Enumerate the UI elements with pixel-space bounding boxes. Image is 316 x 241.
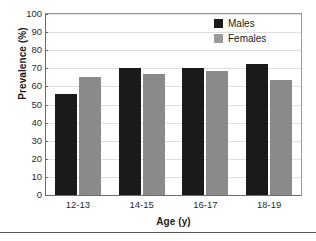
x-axis-title: Age (y) — [45, 216, 302, 227]
bar-group — [119, 14, 165, 195]
y-tick-label: 40 — [20, 118, 42, 128]
bar-males — [182, 68, 204, 195]
footer-divider — [0, 232, 316, 233]
y-tick-label: 20 — [20, 154, 42, 164]
y-tick-label: 50 — [20, 100, 42, 110]
bar-females — [79, 77, 101, 195]
y-tick-mark — [45, 105, 48, 106]
y-tick-label: 80 — [20, 45, 42, 55]
y-tick-mark — [45, 32, 48, 33]
legend-item-males: Males — [214, 17, 266, 30]
bar-group — [55, 14, 101, 195]
y-tick-mark — [45, 14, 48, 15]
bar-males — [119, 68, 141, 195]
y-tick-label: 100 — [20, 9, 42, 19]
y-tick-mark — [45, 50, 48, 51]
y-tick-mark — [45, 141, 48, 142]
y-tick-label: 30 — [20, 136, 42, 146]
y-tick-label: 10 — [20, 172, 42, 182]
bar-males — [246, 64, 268, 195]
y-tick-mark — [45, 195, 48, 196]
chart-legend: MalesFemales — [214, 17, 266, 47]
y-tick-label: 60 — [20, 81, 42, 91]
legend-swatch-males-icon — [214, 19, 223, 28]
y-tick-mark — [45, 68, 48, 69]
y-tick-mark — [45, 123, 48, 124]
y-tick-label: 90 — [20, 27, 42, 37]
legend-label: Females — [228, 34, 266, 44]
bar-females — [206, 71, 228, 195]
bar-chart-figure: Prevalence (%) 1009080706050403020100 12… — [0, 0, 316, 241]
y-tick-mark — [45, 159, 48, 160]
legend-item-females: Females — [214, 32, 266, 45]
y-tick-mark — [45, 86, 48, 87]
y-tick-label: 70 — [20, 63, 42, 73]
legend-label: Males — [228, 19, 255, 29]
y-axis-ticks: 1009080706050403020100 — [18, 0, 42, 241]
bar-males — [55, 94, 77, 195]
y-tick-mark — [45, 177, 48, 178]
x-tick-label: 18-19 — [232, 200, 306, 210]
y-tick-label: 0 — [20, 190, 42, 200]
legend-swatch-females-icon — [214, 34, 223, 43]
bar-females — [270, 80, 292, 195]
bar-females — [143, 74, 165, 195]
